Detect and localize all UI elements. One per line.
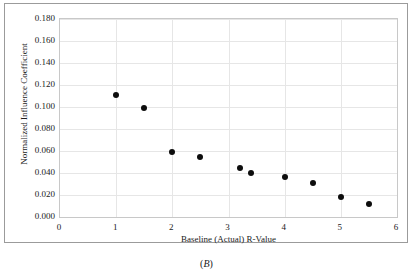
- gridline-vertical: [172, 19, 173, 217]
- figure-container: 0.0000.0200.0400.0600.0800.1000.1200.140…: [0, 0, 413, 280]
- data-point: [248, 170, 254, 176]
- gridline-vertical: [116, 19, 117, 217]
- data-point: [338, 194, 344, 200]
- y-tick-label: 0.000: [7, 212, 55, 221]
- x-tick-label: 4: [269, 223, 299, 232]
- x-tick-label: 3: [213, 223, 243, 232]
- x-tick-label: 1: [100, 223, 130, 232]
- chart-frame: 0.0000.0200.0400.0600.0800.1000.1200.140…: [4, 3, 408, 243]
- y-tick-label: 0.020: [7, 190, 55, 199]
- y-tick-label: 0.120: [7, 80, 55, 89]
- data-point: [169, 149, 175, 155]
- gridline-vertical: [285, 19, 286, 217]
- data-point: [282, 174, 288, 180]
- data-point: [366, 201, 372, 207]
- y-tick-label: 0.080: [7, 124, 55, 133]
- data-point: [197, 154, 203, 160]
- x-tick-label: 5: [325, 223, 355, 232]
- y-tick-label: 0.040: [7, 168, 55, 177]
- y-tick-label: 0.100: [7, 102, 55, 111]
- y-axis-tick-layer: 0.0000.0200.0400.0600.0800.1000.1200.140…: [5, 18, 55, 218]
- data-point: [310, 180, 316, 186]
- x-axis-title: Baseline (Actual) R-Value: [59, 234, 398, 244]
- x-tick-label: 6: [381, 223, 411, 232]
- gridline-vertical: [229, 19, 230, 217]
- data-point: [141, 105, 147, 111]
- caption-close-paren: ): [210, 258, 213, 269]
- y-tick-label: 0.060: [7, 146, 55, 155]
- figure-caption: (B): [0, 258, 413, 269]
- data-point: [113, 92, 119, 98]
- x-tick-label: 2: [156, 223, 186, 232]
- gridline-vertical: [341, 19, 342, 217]
- data-point: [237, 165, 243, 171]
- y-tick-label: 0.180: [7, 14, 55, 23]
- x-tick-label: 0: [44, 223, 74, 232]
- plot-area: [59, 18, 398, 218]
- y-tick-label: 0.140: [7, 58, 55, 67]
- y-tick-label: 0.160: [7, 36, 55, 45]
- y-axis-title: Normalized Influence Coefficient: [19, 0, 29, 209]
